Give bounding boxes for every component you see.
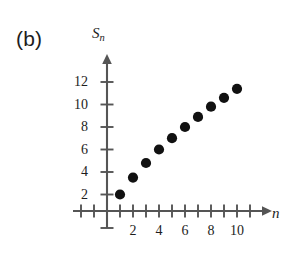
panel-label: (b): [16, 28, 42, 49]
y-axis-label-base: S: [92, 25, 100, 41]
x-axis-label: n: [272, 206, 280, 221]
y-tick-label: 4: [62, 165, 88, 179]
y-tick-label: 6: [62, 143, 88, 157]
x-tick-label: 10: [224, 224, 250, 238]
data-point: [232, 84, 242, 94]
y-axis-arrowhead: [102, 54, 112, 64]
y-axis-label: Sn: [92, 26, 105, 44]
data-points: [115, 84, 242, 200]
x-tick-label: 6: [175, 224, 195, 238]
data-point: [154, 144, 164, 154]
data-point: [219, 93, 229, 103]
y-axis-label-subscript: n: [100, 32, 105, 43]
x-tick-label: 4: [149, 224, 169, 238]
data-point: [141, 158, 151, 168]
data-point: [167, 133, 177, 143]
x-axis-group: [73, 205, 272, 218]
y-tick-label: 8: [62, 120, 88, 134]
figure-panel-b: (b) Sn n: [0, 0, 298, 256]
data-point: [128, 173, 138, 183]
y-tick-label: 12: [62, 75, 88, 89]
y-tick-label: 10: [62, 98, 88, 112]
x-tick-label: 8: [201, 224, 221, 238]
chart-axes-and-points: [0, 0, 298, 256]
data-point: [206, 102, 216, 112]
data-point: [193, 112, 203, 122]
x-axis-arrowhead: [262, 206, 272, 216]
y-tick-label: 2: [62, 188, 88, 202]
data-point: [180, 122, 190, 132]
data-point: [115, 189, 125, 199]
x-tick-label: 2: [123, 224, 143, 238]
y-axis-group: [101, 54, 114, 228]
